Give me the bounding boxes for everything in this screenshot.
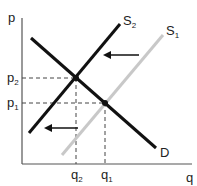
supply-curve-s1 [62,35,163,155]
shift-arrow-lower [44,124,78,132]
q1-label: q1 [101,167,113,184]
s1-label: S1 [166,23,180,40]
p2-label: p2 [7,70,19,87]
supply-demand-diagram: p q S2 S1 D p2 p1 q2 q1 [0,0,197,186]
y-axis-label: p [8,10,15,25]
x-axis-label: q [186,170,193,185]
p1-label: p1 [7,95,19,112]
s2-label: S2 [123,13,137,30]
demand-label: D [160,145,169,160]
equilibrium-point-1 [102,100,108,106]
q2-label: q2 [71,167,83,184]
equilibrium-point-2 [73,75,79,81]
shift-arrow-upper [103,51,139,59]
